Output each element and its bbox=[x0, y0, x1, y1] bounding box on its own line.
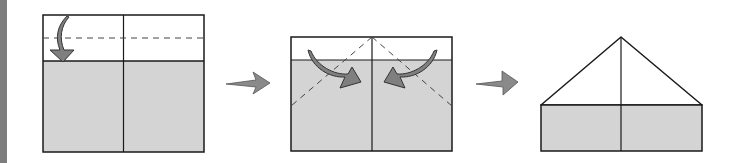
step-2 bbox=[291, 37, 452, 151]
step-1 bbox=[43, 15, 204, 152]
origami-diagram bbox=[0, 0, 738, 163]
next-step-arrow-icon bbox=[476, 71, 518, 95]
next-step-arrow-icon bbox=[226, 72, 270, 94]
step-3 bbox=[541, 37, 702, 151]
